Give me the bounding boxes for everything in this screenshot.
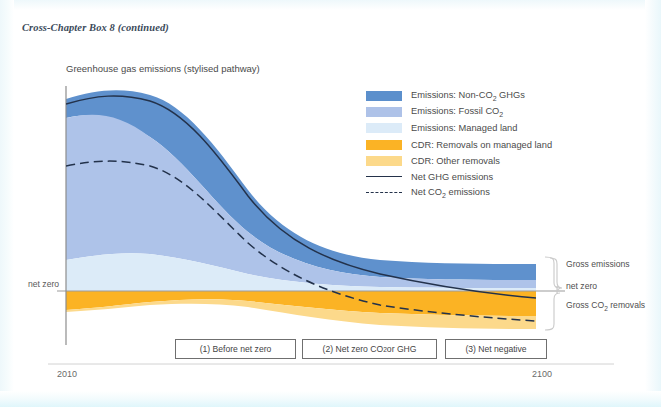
legend-label-cdr-managed-land: CDR: Removals on managed land bbox=[411, 140, 552, 150]
legend-item-emissions-non-co2-ghgs: Emissions: Non-CO2 GHGs bbox=[366, 88, 552, 104]
legend-item-cdr-other-removals: CDR: Other removals bbox=[366, 153, 552, 169]
net-zero-axis-label: net zero bbox=[28, 279, 59, 289]
legend-label-net-ghg: Net GHG emissions bbox=[411, 172, 493, 182]
legend-swatch-cdr-other-removals bbox=[366, 156, 402, 166]
phase-box-net-zero-co2-or-ghg[interactable]: (2) Net zero CO2 or GHG bbox=[302, 339, 437, 359]
legend-swatch-non-co2-ghgs bbox=[366, 91, 402, 101]
legend-swatch-fossil-co2 bbox=[366, 107, 402, 117]
phase-box-before-net-zero[interactable]: (1) Before net zero bbox=[175, 339, 296, 359]
chart-legend: Emissions: Non-CO2 GHGs Emissions: Fossi… bbox=[366, 88, 552, 201]
legend-line-net-ghg bbox=[366, 172, 402, 182]
annotation-gross-co2-removals: Gross CO2 removals bbox=[566, 300, 645, 312]
bracket-gross-emissions-upper bbox=[545, 257, 560, 288]
x-axis-end-year: 2100 bbox=[532, 369, 552, 379]
legend-label-net-co2: Net CO2 emissions bbox=[411, 187, 490, 199]
annotation-gross-emissions: Gross emissions bbox=[566, 259, 630, 269]
legend-item-net-ghg-emissions: Net GHG emissions bbox=[366, 169, 552, 185]
page-root: Cross-Chapter Box 8 (continued) Greenhou… bbox=[0, 0, 661, 407]
bracket-gross-emissions bbox=[550, 258, 562, 294]
phase-box-net-negative[interactable]: (3) Net negative bbox=[445, 339, 547, 359]
legend-label-non-co2-ghgs: Emissions: Non-CO2 GHGs bbox=[411, 90, 525, 102]
legend-item-emissions-fossil-co2: Emissions: Fossil CO2 bbox=[366, 104, 552, 120]
legend-swatch-managed-land bbox=[366, 123, 402, 133]
legend-label-cdr-other-removals: CDR: Other removals bbox=[411, 156, 500, 166]
legend-item-cdr-removals-managed-land: CDR: Removals on managed land bbox=[366, 137, 552, 153]
legend-item-emissions-managed-land: Emissions: Managed land bbox=[366, 120, 552, 136]
legend-item-net-co2-emissions: Net CO2 emissions bbox=[366, 185, 552, 201]
annotation-net-zero: net zero bbox=[566, 281, 597, 291]
legend-label-fossil-co2: Emissions: Fossil CO2 bbox=[411, 106, 503, 118]
x-axis-start-year: 2010 bbox=[57, 369, 77, 379]
bracket-gross-co2-removals bbox=[545, 293, 560, 330]
legend-swatch-cdr-managed-land bbox=[366, 140, 402, 150]
legend-label-managed-land: Emissions: Managed land bbox=[411, 123, 517, 133]
legend-line-net-co2 bbox=[366, 188, 402, 198]
